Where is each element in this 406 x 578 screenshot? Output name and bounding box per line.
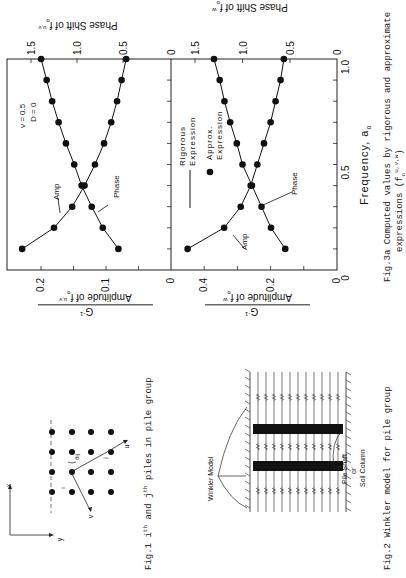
svg-text:0.5: 0.5 bbox=[118, 41, 129, 55]
fig2-label-pile-2: or bbox=[350, 468, 357, 474]
fig2-label-pile-3: Soil Column bbox=[359, 449, 366, 487]
annot-phase-top: Phase bbox=[112, 175, 121, 198]
frequency-axis-title: Frequency, ao bbox=[358, 125, 372, 205]
chart-frame bbox=[7, 59, 337, 270]
fig1-label-v: v bbox=[87, 515, 94, 519]
svg-text:0: 0 bbox=[165, 278, 176, 284]
bottom-amp-axis-title: Amplitude of fow bbox=[205, 290, 310, 305]
bottom-amp-axis-den: G-1 bbox=[245, 306, 258, 317]
top-amp-axis-den: G-1 bbox=[80, 306, 93, 317]
top-amp-axis-title: Amplitude of fou,v bbox=[38, 290, 153, 305]
legend-approx-2: Expression bbox=[215, 110, 224, 160]
chart-series bbox=[19, 56, 289, 253]
fig2-label-pile-1: Pile Shaft bbox=[341, 454, 348, 484]
svg-text:0.5: 0.5 bbox=[285, 41, 296, 55]
svg-text:1.5: 1.5 bbox=[190, 41, 201, 55]
fig3a-caption: Fig.3a Computed values by rigorous and a… bbox=[383, 12, 406, 282]
bottom-phase-axis-title: Phase Shift of fow bbox=[180, 0, 320, 13]
fig1-label-theta: θij bbox=[74, 454, 80, 460]
fig1-axis-y-label: y bbox=[56, 538, 63, 542]
fig1-label-i: i bbox=[60, 487, 66, 488]
svg-text:1.0: 1.0 bbox=[340, 60, 351, 74]
annot-amp-top: Amp bbox=[52, 184, 61, 200]
annot-phase-bottom: Phase bbox=[290, 172, 299, 195]
top-phase-axis-title: Phase Shift of fou,v bbox=[3, 18, 153, 31]
legend-rigorous-2: Expression bbox=[188, 116, 197, 166]
fig1-label-j: j bbox=[102, 457, 108, 458]
fig1-caption: Fig.1 ith and jth piles in pile group bbox=[142, 377, 154, 570]
svg-text:1.0: 1.0 bbox=[238, 41, 249, 55]
fig2-caption: Fig.2 Winkler model for pile group bbox=[383, 386, 393, 570]
param-nu: ν = 0.5 bbox=[18, 104, 27, 128]
legend-approx-1: Approx. bbox=[205, 125, 214, 160]
fig2-label-winkler: Winkler Model bbox=[207, 457, 214, 501]
legend-rigorous-1: Rigorous bbox=[178, 126, 187, 166]
svg-text:0: 0 bbox=[332, 49, 343, 55]
svg-text:0.5: 0.5 bbox=[340, 165, 351, 179]
fig1-axis-x-label: x bbox=[5, 484, 12, 488]
param-d: D = 0 bbox=[29, 103, 38, 122]
svg-text:0: 0 bbox=[340, 275, 351, 281]
paper-page: 0.10.200.51.01.500.20.400.51.01.5000.51.… bbox=[0, 0, 406, 578]
svg-text:1.5: 1.5 bbox=[26, 41, 37, 55]
svg-text:0: 0 bbox=[166, 49, 177, 55]
annot-amp-bottom: Amp bbox=[240, 234, 249, 250]
fig3a-chart: 0.10.200.51.01.500.20.400.51.01.5000.51.… bbox=[0, 0, 406, 578]
fig1-label-u: u bbox=[123, 445, 130, 449]
svg-text:1.0: 1.0 bbox=[72, 41, 83, 55]
